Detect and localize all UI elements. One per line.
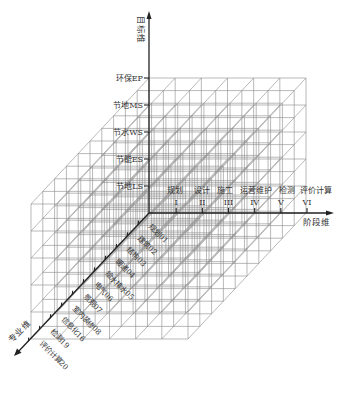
discipline-tick — [72, 291, 73, 295]
discipline-tick — [28, 337, 29, 341]
stage-axis-title: 阶段维 — [303, 217, 330, 227]
discipline-tick — [39, 326, 40, 330]
goal-level-label: 节地LS — [116, 181, 143, 191]
stage-name-label: 评价计算 — [300, 185, 332, 195]
discipline-tick — [116, 244, 117, 248]
stage-axis-arrow-icon — [326, 211, 334, 216]
goal-level-label: 节水WS — [113, 127, 143, 137]
stage-roman-numeral: VI — [302, 198, 312, 207]
goal-axis-title: 目标维 — [136, 16, 146, 43]
discipline-tick — [138, 221, 139, 225]
discipline-tick — [61, 302, 62, 306]
stage-roman-numeral: IV — [250, 198, 259, 207]
stage-roman-numeral: I — [175, 198, 178, 207]
goal-axis-arrow-icon — [147, 11, 152, 19]
stage-roman-numeral: II — [199, 198, 205, 207]
stage-name-label: 施工 — [217, 185, 233, 195]
discipline-tick — [94, 267, 95, 271]
stage-roman-numeral: III — [224, 198, 233, 207]
goal-level-label: 环保EP — [116, 73, 144, 83]
discipline-tick — [50, 314, 51, 318]
hall-cube-diagram: 目标维 阶段维 专业维 节地LS节能ES节水WS节地MS环保EP IIIIIII… — [0, 0, 343, 403]
goal-level-label: 节地MS — [113, 100, 143, 110]
discipline-tick — [83, 279, 84, 283]
stage-name-label: 设计 — [194, 185, 210, 195]
goal-level-label: 节能ES — [116, 154, 143, 164]
discipline-tick — [105, 256, 106, 260]
stage-roman-numeral: V — [277, 198, 284, 207]
stage-name-label: 运营维护 — [240, 185, 272, 195]
discipline-tick — [127, 232, 128, 236]
stage-name-label: 检测 — [279, 185, 295, 195]
cube-grid — [31, 78, 306, 339]
stage-name-label: 规划 — [167, 185, 183, 195]
